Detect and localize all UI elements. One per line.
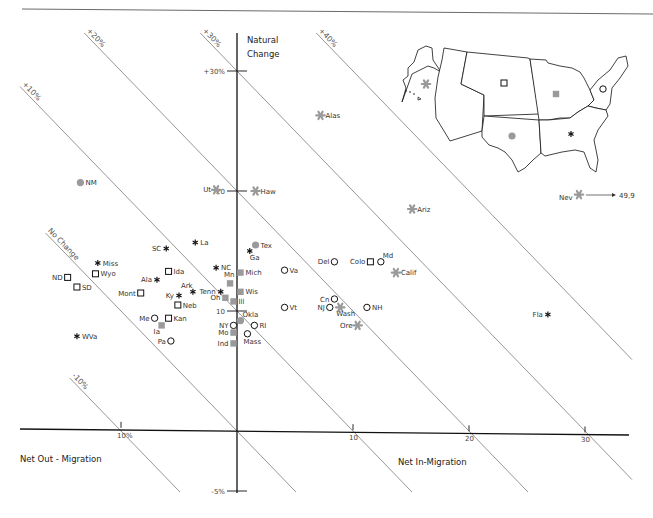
point-label: Me	[139, 315, 149, 323]
gray-square-marker-icon	[230, 340, 236, 346]
point-label: Mont	[118, 290, 136, 298]
point-label: Ia	[154, 328, 160, 336]
data-point-nm: NM	[77, 179, 97, 187]
open-circle-marker-icon	[327, 304, 333, 310]
point-label: Ariz	[417, 206, 431, 214]
data-point-nd: ND	[52, 274, 71, 282]
gray-square-marker-icon	[230, 329, 236, 335]
point-label: Ky	[166, 292, 174, 300]
point-label: Neb	[183, 302, 198, 310]
y-tick-label: -5%	[211, 488, 225, 496]
point-label: Wash	[336, 310, 355, 318]
data-point-miss: Miss	[95, 260, 118, 268]
asterisk-marker-icon	[176, 292, 181, 298]
point-label: NJ	[317, 304, 324, 312]
data-point-ky: Ky	[166, 292, 182, 300]
point-label: SC	[152, 245, 161, 253]
data-point-ark: Ark	[181, 282, 196, 295]
gray-square-marker-icon	[237, 269, 243, 275]
open-square-marker-icon	[166, 268, 172, 274]
point-label: RI	[259, 322, 266, 330]
data-point-me: Me	[139, 315, 158, 323]
open-square-marker-icon	[138, 290, 144, 296]
point-label: Ida	[174, 268, 185, 276]
x-tick-label: 20	[465, 435, 474, 443]
data-point-wyo: Wyo	[92, 270, 115, 278]
open-circle-marker-icon	[281, 267, 287, 273]
point-label: Nev	[559, 194, 573, 202]
map-alaska	[402, 46, 441, 102]
data-point-kan: Kan	[166, 315, 187, 323]
point-label: Vt	[290, 304, 298, 312]
open-circle-marker-icon	[244, 331, 250, 337]
gray-circle-marker-icon	[77, 179, 84, 186]
open-square-marker-icon	[74, 284, 80, 290]
asterisk-marker-icon	[545, 312, 550, 318]
asterisk-marker-icon	[95, 260, 100, 266]
legend-circle-gray-icon	[508, 132, 515, 139]
point-label: Miss	[103, 260, 119, 268]
asterisk-marker-icon	[164, 246, 169, 252]
legend-map	[402, 46, 628, 172]
point-label: SD	[82, 284, 92, 292]
point-label: Wis	[245, 288, 258, 296]
open-square-marker-icon	[166, 315, 172, 321]
data-point-haw: Haw	[251, 187, 276, 195]
x-axis-label-right: Net In-Migration	[398, 457, 467, 467]
legend-star-icon	[422, 80, 430, 87]
x-tick-label: 10%	[117, 432, 133, 440]
data-point-cn: Cn	[320, 296, 338, 304]
gray-square-marker-icon	[222, 295, 228, 301]
nev-offscale-arrow: 49,9	[586, 192, 635, 200]
data-point-mo: Mo	[218, 329, 237, 337]
point-label: NY	[219, 322, 229, 330]
legend-square-open-icon	[501, 80, 507, 86]
point-label: NH	[372, 304, 383, 312]
point-label: Del	[318, 258, 330, 266]
asterisk-marker-icon	[193, 240, 198, 246]
star-marker-icon	[392, 269, 400, 276]
point-label: Mo	[218, 329, 228, 337]
point-label: Ore	[340, 322, 353, 330]
data-point-md: Md	[378, 252, 394, 265]
star-marker-icon	[353, 322, 361, 329]
point-label: Ut	[203, 186, 211, 194]
data-point-ida: Ida	[166, 268, 185, 276]
isoline-label: No Change	[46, 226, 81, 262]
data-point-sc: SC	[152, 245, 169, 253]
data-point-ariz: Ariz	[408, 205, 431, 213]
data-point-la: La	[193, 239, 209, 247]
legend-square-gray-icon	[553, 91, 559, 97]
point-label: Ala	[141, 276, 152, 284]
data-point-ala: Ala	[141, 276, 160, 284]
star-marker-icon	[251, 187, 259, 194]
y-tick-label: +30%	[204, 68, 226, 76]
open-circle-marker-icon	[168, 338, 174, 344]
data-point-wis: Wis	[237, 288, 258, 296]
point-label: Mn	[224, 271, 234, 279]
open-circle-marker-icon	[364, 304, 370, 310]
open-square-marker-icon	[65, 274, 71, 280]
open-circle-marker-icon	[331, 259, 337, 265]
data-point-wva: WVa	[74, 333, 97, 341]
data-point-wash: Wash	[336, 304, 355, 319]
point-label: Calif	[401, 269, 417, 277]
data-point-ga: Ga	[247, 248, 259, 262]
point-label: Pa	[158, 338, 166, 346]
open-circle-marker-icon	[151, 315, 157, 321]
point-label: Haw	[261, 188, 277, 196]
point-label: Fla	[533, 311, 543, 319]
x-axis	[20, 429, 629, 435]
data-point-alas: Alas	[316, 112, 340, 120]
gray-square-marker-icon	[227, 280, 233, 286]
open-circle-marker-icon	[230, 322, 236, 328]
open-circle-marker-icon	[331, 296, 337, 302]
point-label: WVa	[82, 333, 97, 341]
point-label: Mich	[245, 269, 261, 277]
star-marker-icon	[575, 191, 583, 198]
point-label: Tex	[260, 242, 272, 250]
x-tick-label: 10	[349, 434, 358, 442]
data-point-tex: Tex	[252, 241, 272, 249]
data-point-ut: Ut	[203, 186, 220, 194]
data-point-mich: Mich	[237, 269, 261, 277]
